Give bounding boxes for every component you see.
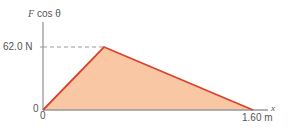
plot-area	[0, 0, 291, 128]
y-tick-label-peak: 62.0 N	[3, 41, 32, 52]
x-axis-label: x	[271, 103, 275, 113]
y-tick-label-zero: 0	[33, 103, 39, 114]
x-tick-label-zero: 0	[40, 110, 46, 121]
x-tick-label-end: 1.60 m	[242, 112, 273, 123]
y-axis-label: F cos θ	[28, 8, 61, 19]
